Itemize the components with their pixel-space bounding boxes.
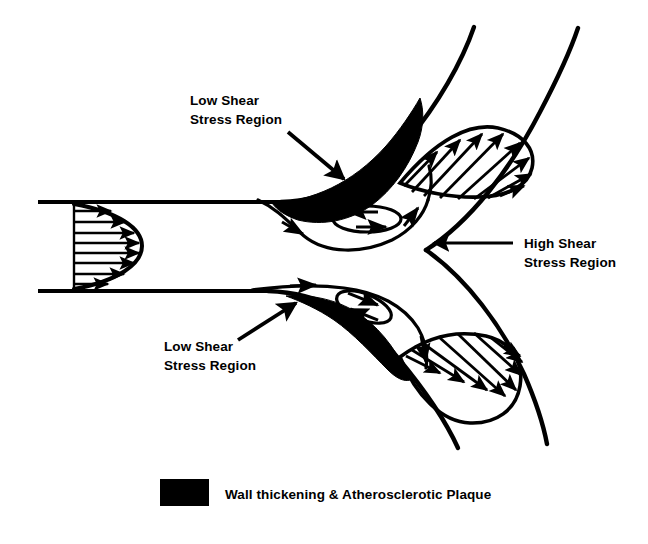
high-shear-line2: Stress Region — [524, 255, 616, 270]
legend-label: Wall thickening & Atherosclerotic Plaque — [225, 487, 492, 502]
low-shear-bottom-line2: Stress Region — [164, 358, 256, 373]
low-shear-top-line1: Low Shear — [190, 93, 260, 108]
low-shear-bottom-line1: Low Shear — [164, 339, 234, 354]
high-shear-line1: High Shear — [524, 236, 597, 251]
bifurcation-diagram-svg: Low Shear Stress Region Low Shear Stress… — [0, 0, 648, 544]
diagram-root: Low Shear Stress Region Low Shear Stress… — [0, 0, 648, 544]
legend-swatch — [160, 479, 209, 506]
low-shear-top-line2: Stress Region — [190, 112, 282, 127]
canvas-background — [0, 0, 648, 544]
